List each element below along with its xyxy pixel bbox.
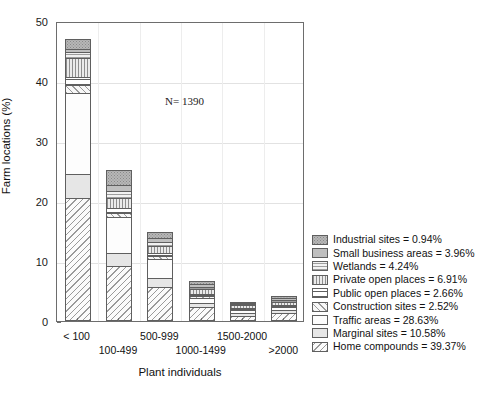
bar-segment <box>147 246 173 253</box>
y-tick-label: 0 <box>22 317 48 327</box>
legend-item[interactable]: Traffic areas = 28.63% <box>312 313 498 326</box>
stacked-bar <box>106 21 132 321</box>
bar-segment <box>189 281 215 284</box>
legend-label: Construction sites = 2.52% <box>333 301 458 312</box>
x-category-label: 1000-1499 <box>161 344 241 356</box>
gridline-vertical <box>222 23 223 321</box>
bar-segment <box>147 242 173 246</box>
legend-swatch-icon <box>312 235 328 245</box>
bar-segment <box>106 185 132 191</box>
bar-segment <box>65 174 91 198</box>
bar-segment <box>189 298 215 303</box>
bar-segment <box>65 198 91 321</box>
stacked-bar <box>189 21 215 321</box>
legend-swatch-icon <box>312 261 328 271</box>
legend-item[interactable]: Public open places = 2.66% <box>312 287 498 300</box>
y-tick-label: 40 <box>22 77 48 87</box>
bar-segment <box>106 198 132 208</box>
y-tick-label: 30 <box>22 137 48 147</box>
bar-segment <box>65 52 91 58</box>
bar-segment <box>230 310 256 313</box>
bar-segment <box>65 77 91 84</box>
legend-swatch-icon <box>312 248 328 258</box>
legend-swatch-icon <box>312 302 328 312</box>
gridline-vertical <box>140 23 141 321</box>
bar-segment <box>147 232 173 239</box>
legend-item[interactable]: Small business areas = 3.96% <box>312 246 498 259</box>
bar-segment <box>230 308 256 309</box>
bar-segment <box>230 313 256 315</box>
bar-segment <box>106 266 132 321</box>
x-axis-title: Plant individuals <box>56 366 304 378</box>
legend-item[interactable]: Home compounds = 39.37% <box>312 340 498 353</box>
legend-item[interactable]: Industrial sites = 0.94% <box>312 233 498 246</box>
legend-label: Private open places = 6.91% <box>333 274 467 285</box>
bar-segment <box>189 296 215 298</box>
bar-segment <box>189 289 215 294</box>
legend-swatch-icon <box>312 328 328 338</box>
stacked-bar <box>230 21 256 321</box>
x-tick-mark <box>242 318 243 322</box>
y-tick-mark <box>57 322 61 323</box>
x-category-label: 100-499 <box>78 344 158 356</box>
bar-segment <box>271 296 297 298</box>
bar-segment <box>65 39 91 49</box>
bar-segment <box>65 49 91 53</box>
x-category-label: < 100 <box>37 330 117 342</box>
plot-area: N= 1390 <box>56 22 304 322</box>
y-tick-label: 20 <box>22 197 48 207</box>
bar-segment <box>230 304 256 305</box>
bar-segment <box>106 208 132 213</box>
legend-item[interactable]: Construction sites = 2.52% <box>312 300 498 313</box>
bar-segment <box>147 256 173 259</box>
x-tick-mark <box>159 318 160 322</box>
x-tick-mark <box>77 318 78 322</box>
gridline-vertical <box>264 23 265 321</box>
bar-segment <box>271 307 297 310</box>
stacked-bar <box>147 21 173 321</box>
legend-label: Public open places = 2.66% <box>333 288 463 299</box>
y-tick-label: 50 <box>22 17 48 27</box>
bar-segment <box>271 298 297 300</box>
bar-segment <box>106 170 132 185</box>
stacked-bar <box>271 21 297 321</box>
bar-segment <box>106 253 132 266</box>
bar-segment <box>271 306 297 307</box>
y-axis-title: Farm locations (%) <box>0 56 12 236</box>
bar-segment <box>189 303 215 307</box>
chart-root: Farm locations (%) 01020304050 N= 1390 <… <box>0 0 499 393</box>
bar-segment <box>271 310 297 313</box>
legend-swatch-icon <box>312 275 328 285</box>
legend-item[interactable]: Marginal sites = 10.58% <box>312 327 498 340</box>
legend-item[interactable]: Private open places = 6.91% <box>312 273 498 286</box>
bar-segment <box>189 284 215 286</box>
legend-swatch-icon <box>312 342 328 352</box>
legend-item[interactable]: Wetlands = 4.24% <box>312 260 498 273</box>
x-category-label: 500-999 <box>119 330 199 342</box>
bar-segment <box>271 313 297 321</box>
bar-segment <box>230 309 256 310</box>
x-tick-mark <box>118 318 119 322</box>
x-category-label: 1500-2000 <box>202 330 282 342</box>
bar-segment <box>230 305 256 307</box>
gridline-vertical <box>98 23 99 321</box>
bar-segment <box>147 253 173 256</box>
bar-segment <box>230 303 256 304</box>
gridline-horizontal <box>57 143 303 144</box>
gridline-horizontal <box>57 263 303 264</box>
bar-segment <box>189 307 215 321</box>
x-tick-mark <box>201 318 202 322</box>
legend-label: Traffic areas = 28.63% <box>333 315 438 326</box>
bar-segment <box>147 287 173 321</box>
stacked-bar <box>65 21 91 321</box>
legend-label: Home compounds = 39.37% <box>333 341 466 352</box>
legend-swatch-icon <box>312 288 328 298</box>
bar-segment <box>147 259 173 279</box>
sample-size-annotation: N= 1390 <box>165 95 204 107</box>
gridline-horizontal <box>57 203 303 204</box>
bar-segment <box>271 300 297 302</box>
bar-segment <box>271 305 297 306</box>
bar-segment <box>230 316 256 321</box>
bar-segment <box>106 217 132 253</box>
gridline-horizontal <box>57 83 303 84</box>
